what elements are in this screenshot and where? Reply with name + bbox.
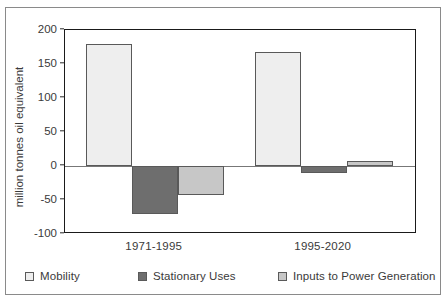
chart-legend: MobilityStationary UsesInputs to Power G… (20, 266, 430, 286)
x-axis-label-group-1: 1971-1995 (125, 240, 182, 252)
legend-label: Inputs to Power Generation (293, 270, 436, 282)
bars-container (65, 30, 415, 232)
legend-item-inputs-to-power-generation[interactable]: Inputs to Power Generation (278, 270, 436, 282)
plot-area (64, 29, 416, 233)
bar-inputs-to-power-generation-1995-2020 (347, 161, 393, 166)
x-axis-label-group-2: 1995-2020 (294, 240, 351, 252)
legend-swatch-icon (25, 272, 34, 281)
legend-label: Stationary Uses (153, 270, 236, 282)
legend-item-stationary-uses[interactable]: Stationary Uses (138, 270, 236, 282)
legend-swatch-icon (278, 272, 287, 281)
chart-figure: 200 150 100 50 0 -50 -100 million tonnes… (0, 0, 447, 302)
zero-baseline (65, 166, 415, 167)
bar-stationary-uses-1971-1995 (132, 166, 178, 214)
bar-stationary-uses-1995-2020 (301, 166, 347, 173)
y-axis-title: million tonnes oil equivalent (13, 37, 25, 237)
bar-mobility-1971-1995 (86, 44, 132, 166)
legend-label: Mobility (40, 270, 80, 282)
legend-swatch-icon (138, 272, 147, 281)
legend-item-mobility[interactable]: Mobility (25, 270, 80, 282)
bar-inputs-to-power-generation-1971-1995 (178, 166, 224, 195)
bar-mobility-1995-2020 (255, 52, 301, 166)
